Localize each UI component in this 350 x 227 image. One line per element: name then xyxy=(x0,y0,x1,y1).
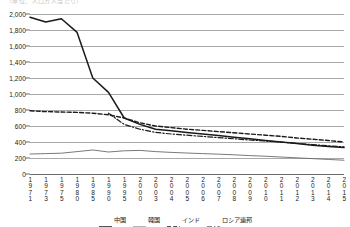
series-line xyxy=(30,150,344,160)
legend-swatch-icon xyxy=(207,216,220,222)
series-line xyxy=(30,111,344,142)
series-line xyxy=(109,113,345,147)
series-layer xyxy=(0,0,350,227)
legend-label: 中国 xyxy=(114,215,126,224)
series-line xyxy=(30,17,344,147)
line-chart: （単位：人口万人当たり） 02004006008001,0001,2001,40… xyxy=(0,0,350,227)
legend-item[interactable]: ロシア連邦 xyxy=(207,215,252,224)
legend-swatch-icon xyxy=(133,216,146,222)
legend-label: インド xyxy=(182,215,200,224)
legend-swatch-icon xyxy=(99,216,112,222)
legend-item[interactable]: インド xyxy=(167,215,200,224)
legend: 中国韓国インドロシア連邦 xyxy=(0,212,350,226)
legend-swatch-icon xyxy=(167,216,180,222)
legend-label: ロシア連邦 xyxy=(222,215,252,224)
series-paths xyxy=(30,17,344,160)
legend-label: 韓国 xyxy=(148,215,160,224)
legend-item[interactable]: 中国 xyxy=(99,215,126,224)
legend-item[interactable]: 韓国 xyxy=(133,215,160,224)
